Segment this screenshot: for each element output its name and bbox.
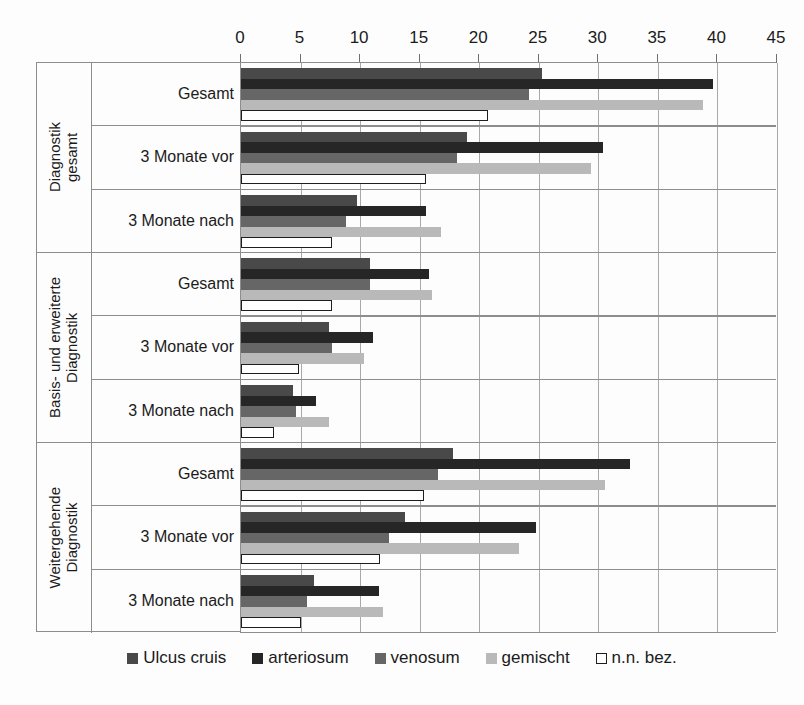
bar: [241, 533, 389, 544]
category-separator: [240, 315, 776, 316]
bar: [241, 142, 603, 153]
category-label-cell: 3 Monate nach: [91, 380, 241, 443]
bar: [241, 596, 307, 607]
category-label-cell: Gesamt: [91, 63, 241, 126]
bar: [241, 206, 426, 217]
bar: [241, 396, 316, 407]
category-label: Gesamt: [178, 85, 234, 103]
category-label-cell: 3 Monate vor: [91, 126, 241, 189]
gridline: [658, 63, 659, 632]
bar: [241, 290, 432, 301]
category-separator: [240, 505, 776, 506]
category-separator: [240, 379, 776, 380]
bar: [241, 79, 713, 90]
category-separator: [240, 189, 776, 190]
legend-item[interactable]: venosum: [375, 648, 460, 668]
bar-chart: 051015202530354045 Diagnostik gesamtGesa…: [0, 0, 804, 705]
bar: [241, 459, 630, 470]
x-tick-label: 35: [647, 28, 666, 48]
bar: [241, 132, 467, 143]
legend-item[interactable]: Ulcus cruis: [127, 648, 226, 668]
bar: [241, 110, 488, 121]
legend-item[interactable]: gemischt: [486, 648, 570, 668]
x-tick-label: 10: [350, 28, 369, 48]
bar: [241, 469, 438, 480]
plot-bottom-rule: [240, 632, 776, 633]
bar: [241, 586, 379, 597]
category-label-cell: 3 Monate nach: [91, 190, 241, 253]
legend-swatch-icon: [127, 653, 138, 664]
category-label-cell: 3 Monate nach: [91, 570, 241, 633]
x-tick-label: 45: [767, 28, 786, 48]
bar: [241, 269, 429, 280]
x-tick-label: 5: [295, 28, 304, 48]
bar: [241, 575, 314, 586]
chart-legend: Ulcus cruisarteriosumvenosumgemischtn.n.…: [0, 648, 804, 668]
legend-swatch-icon: [252, 653, 263, 664]
bar: [241, 427, 274, 438]
x-tick-label: 30: [588, 28, 607, 48]
bar: [241, 522, 536, 533]
x-tick-mark: [776, 54, 777, 63]
bar: [241, 279, 370, 290]
bar: [241, 258, 370, 269]
bar: [241, 385, 293, 396]
bar: [241, 195, 357, 206]
bar: [241, 153, 457, 164]
category-separator: [240, 125, 776, 126]
bar: [241, 480, 605, 491]
category-label: 3 Monate nach: [128, 592, 234, 610]
bar: [241, 490, 424, 501]
category-label: 3 Monate nach: [128, 212, 234, 230]
bar: [241, 163, 591, 174]
category-separator: [240, 569, 776, 570]
x-tick-label: 0: [235, 28, 244, 48]
category-label: 3 Monate vor: [141, 528, 234, 546]
category-label-cell: Gesamt: [91, 443, 241, 506]
category-separator: [240, 442, 776, 443]
category-label: Gesamt: [178, 275, 234, 293]
category-label: 3 Monate nach: [128, 402, 234, 420]
bar: [241, 607, 383, 618]
legend-item[interactable]: n.n. bez.: [596, 648, 677, 668]
legend-label: Ulcus cruis: [143, 648, 226, 668]
legend-item[interactable]: arteriosum: [252, 648, 348, 668]
category-label: 3 Monate vor: [141, 148, 234, 166]
legend-label: n.n. bez.: [612, 648, 677, 668]
bar: [241, 300, 332, 311]
bar: [241, 448, 453, 459]
category-separator: [240, 252, 776, 253]
category-label-cell: 3 Monate vor: [91, 316, 241, 379]
category-axis-panel: Diagnostik gesamtGesamt3 Monate vor3 Mon…: [36, 62, 240, 632]
bar: [241, 417, 329, 428]
legend-label: venosum: [391, 648, 460, 668]
legend-label: gemischt: [502, 648, 570, 668]
bar: [241, 364, 299, 375]
bar: [241, 89, 529, 100]
bar: [241, 237, 332, 248]
bar: [241, 617, 301, 628]
category-group: Weitergehende DiagnostikGesamt3 Monate v…: [37, 443, 241, 633]
bar: [241, 543, 519, 554]
bar: [241, 512, 405, 523]
legend-label: arteriosum: [268, 648, 348, 668]
bar: [241, 174, 426, 185]
x-tick-label: 25: [528, 28, 547, 48]
bar: [241, 100, 703, 111]
category-group-label: Diagnostik gesamt: [37, 63, 91, 252]
category-label: Gesamt: [178, 465, 234, 483]
gridline: [717, 63, 718, 632]
legend-swatch-icon: [375, 653, 386, 664]
bar: [241, 406, 296, 417]
legend-swatch-icon: [486, 653, 497, 664]
bar: [241, 322, 329, 333]
category-group: Diagnostik gesamtGesamt3 Monate vor3 Mon…: [37, 63, 241, 253]
bar: [241, 216, 346, 227]
category-group: Basis- und erweiterte DiagnostikGesamt3 …: [37, 253, 241, 443]
bar: [241, 227, 441, 238]
plot-area: [240, 62, 776, 632]
gridline: [777, 63, 778, 632]
category-label-cell: 3 Monate vor: [91, 506, 241, 569]
category-label: 3 Monate vor: [141, 338, 234, 356]
bar: [241, 554, 380, 565]
